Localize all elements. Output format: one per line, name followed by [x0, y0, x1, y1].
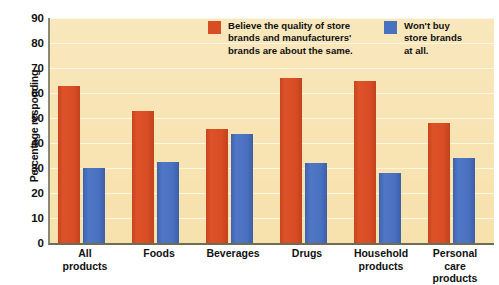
bar-believe-same-quality [58, 86, 80, 244]
x-axis-label: Personal care products [418, 247, 492, 285]
bar-group [124, 18, 198, 243]
legend-swatch-blue [384, 21, 397, 34]
bar-wont-buy-store-brands [231, 134, 253, 243]
y-axis-tick-labels: 9080706050403020100 [14, 18, 44, 243]
x-axis-label: Beverages [196, 247, 270, 260]
x-axis-category-labels: All productsFoodsBeveragesDrugsHousehold… [48, 247, 492, 285]
y-tick-label: 30 [14, 162, 44, 174]
y-tick-label: 0 [14, 237, 44, 249]
bar-believe-same-quality [132, 111, 154, 244]
y-tick-label: 60 [14, 87, 44, 99]
y-tick-label: 40 [14, 137, 44, 149]
bar-believe-same-quality [354, 81, 376, 244]
y-tick-label: 80 [14, 37, 44, 49]
y-tick-label: 50 [14, 112, 44, 124]
bar-believe-same-quality [206, 129, 228, 243]
bar-wont-buy-store-brands [305, 163, 327, 243]
y-tick-label: 90 [14, 12, 44, 24]
bar-wont-buy-store-brands [157, 162, 179, 243]
x-axis-label: Foods [122, 247, 196, 260]
x-axis-label: All products [48, 247, 122, 272]
y-tick-label: 70 [14, 62, 44, 74]
bar-wont-buy-store-brands [453, 158, 475, 243]
legend-swatch-red [208, 21, 221, 34]
legend-label-red: Believe the quality of store brands and … [228, 20, 353, 57]
bar-group [50, 18, 124, 243]
x-axis-label: Household products [344, 247, 418, 272]
bar-chart: Percentage responding 908070605040302010… [0, 0, 499, 285]
y-tick-label: 20 [14, 187, 44, 199]
bar-wont-buy-store-brands [83, 168, 105, 243]
bar-believe-same-quality [280, 78, 302, 243]
legend-entry-wont-buy: Won't buy store brands at all. [384, 20, 462, 57]
x-axis-label: Drugs [270, 247, 344, 260]
bar-believe-same-quality [428, 123, 450, 243]
y-tick-label: 10 [14, 212, 44, 224]
bar-wont-buy-store-brands [379, 173, 401, 243]
legend-entry-believe-same-quality: Believe the quality of store brands and … [208, 20, 353, 57]
legend-label-blue: Won't buy store brands at all. [404, 20, 462, 57]
